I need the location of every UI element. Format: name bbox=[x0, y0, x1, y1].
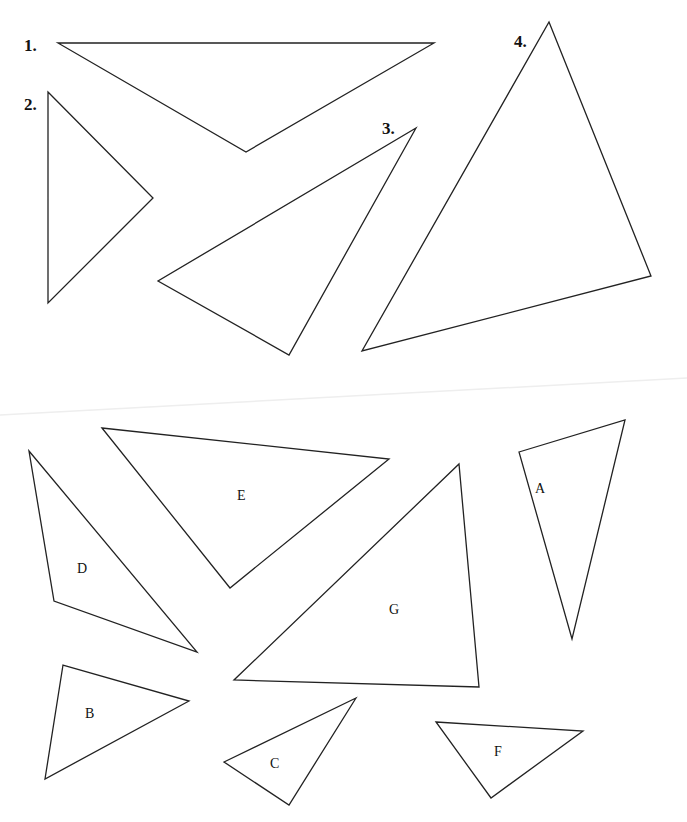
triangle-E: E bbox=[102, 428, 389, 588]
triangle-B: B bbox=[45, 665, 189, 779]
triangle-G-label: G bbox=[389, 602, 399, 617]
triangle-F: F bbox=[436, 722, 583, 798]
triangle-C: C bbox=[224, 698, 356, 805]
triangle-E-shape bbox=[102, 428, 389, 588]
triangle-B-shape bbox=[45, 665, 189, 779]
triangle-F-label: F bbox=[494, 744, 502, 759]
triangle-D-label: D bbox=[77, 561, 87, 576]
triangle-3-label: 3. bbox=[382, 119, 395, 138]
triangle-C-label: C bbox=[270, 756, 279, 771]
triangle-C-shape bbox=[224, 698, 356, 805]
triangle-E-label: E bbox=[237, 488, 246, 503]
triangle-1-shape bbox=[58, 43, 434, 152]
paper-fold-line bbox=[0, 378, 687, 415]
triangle-2: 2. bbox=[24, 92, 153, 303]
triangle-4: 4. bbox=[362, 22, 651, 351]
triangle-A: A bbox=[519, 420, 625, 639]
triangle-3: 3. bbox=[158, 119, 416, 355]
triangle-G: G bbox=[234, 464, 479, 687]
triangle-2-label: 2. bbox=[24, 95, 37, 114]
triangle-D-shape bbox=[29, 451, 197, 652]
triangle-4-label: 4. bbox=[514, 32, 527, 51]
triangle-A-label: A bbox=[535, 481, 546, 496]
triangle-3-shape bbox=[158, 128, 416, 355]
triangle-F-shape bbox=[436, 722, 583, 798]
triangle-2-shape bbox=[48, 92, 153, 303]
triangle-4-shape bbox=[362, 22, 651, 351]
triangle-worksheet: 1.2.3.4.EDAGBCF bbox=[0, 0, 687, 822]
triangle-B-label: B bbox=[85, 706, 94, 721]
triangle-D: D bbox=[29, 451, 197, 652]
triangle-1: 1. bbox=[24, 36, 434, 152]
triangle-G-shape bbox=[234, 464, 479, 687]
triangle-A-shape bbox=[519, 420, 625, 639]
triangle-1-label: 1. bbox=[24, 36, 37, 55]
triangles-canvas: 1.2.3.4.EDAGBCF bbox=[0, 0, 687, 822]
